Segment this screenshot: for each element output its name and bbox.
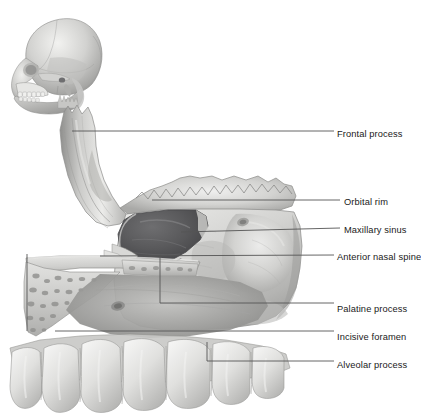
tooth-row <box>10 339 284 413</box>
label-palatine-process: Palatine process <box>337 305 407 314</box>
label-incisive-foramen: Incisive foramen <box>337 333 406 342</box>
maxilla-main-illustration <box>10 105 302 412</box>
label-anterior-nasal-spine: Anterior nasal spine <box>337 253 421 262</box>
label-alveolar-process: Alveolar process <box>337 361 407 370</box>
label-maxillary-sinus: Maxillary sinus <box>344 226 406 235</box>
label-orbital-rim: Orbital rim <box>344 198 388 207</box>
skull-lateral-inset <box>11 19 102 114</box>
label-frontal-process: Frontal process <box>337 130 403 139</box>
